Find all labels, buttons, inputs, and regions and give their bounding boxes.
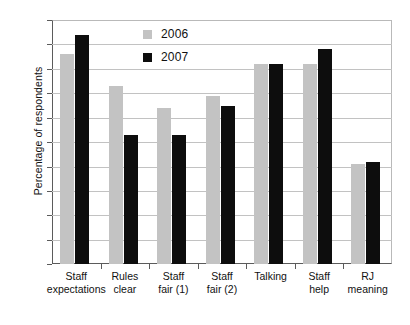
bar-2006 [109, 86, 123, 264]
bar-group [343, 20, 392, 264]
plot-area: 1009080706050403020100 [52, 20, 392, 264]
bar-chart: Percentage of respondents 10090807060504… [0, 0, 410, 325]
bar-2006 [60, 54, 74, 264]
bar-2006 [157, 108, 171, 264]
bar-2006 [303, 64, 317, 264]
bar-2006 [254, 64, 268, 264]
bar-2007 [172, 135, 186, 264]
bar-group [246, 20, 295, 264]
chart-legend: 20062007 [143, 27, 189, 73]
x-axis-tick [343, 264, 344, 269]
bar-2007 [124, 135, 138, 264]
x-axis-tick [198, 264, 199, 269]
y-axis-tick [47, 264, 52, 265]
bar-group [198, 20, 247, 264]
bar-2006 [351, 164, 365, 264]
legend-label: 2007 [161, 50, 189, 64]
bar-2007 [318, 49, 332, 264]
bar-2007 [269, 64, 283, 264]
legend-swatch [143, 30, 152, 39]
x-axis-tick [149, 264, 150, 269]
legend-swatch [143, 53, 152, 62]
legend-item: 2007 [143, 50, 189, 64]
bar-group [52, 20, 101, 264]
bar-2007 [366, 162, 380, 265]
y-axis-title: Percentage of respondents [32, 11, 44, 251]
bar-2007 [75, 35, 89, 265]
x-axis-tick-label-line2: meaning [337, 283, 398, 296]
x-axis-tick-label-line2: fair (2) [192, 283, 253, 296]
x-axis-tick-label-line1: RJ [337, 270, 398, 283]
bar-group [295, 20, 344, 264]
legend-label: 2006 [161, 27, 189, 41]
bar-group [101, 20, 150, 264]
legend-item: 2006 [143, 27, 189, 41]
x-axis-tick [246, 264, 247, 269]
x-axis-tick-label: RJmeaning [337, 270, 398, 295]
x-axis-tick [101, 264, 102, 269]
x-axis-tick [295, 264, 296, 269]
bar-2006 [206, 96, 220, 265]
bar-2007 [221, 106, 235, 265]
